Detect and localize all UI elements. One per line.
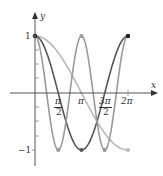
x-tick-3pi-half-num: 3π <box>99 97 111 106</box>
x-tick-3pi-half-den: 2 <box>103 108 109 117</box>
x-tick-pi-half-num: π <box>55 97 61 106</box>
endpoint-dot <box>126 34 130 38</box>
x-tick-pi: π <box>78 97 84 106</box>
x-axis-label: x <box>151 81 156 90</box>
extremum-point <box>103 148 107 152</box>
y-axis-arrow-icon <box>32 12 38 19</box>
y-axis-label: y <box>40 12 45 21</box>
y-tick-1: 1 <box>25 32 31 41</box>
extremum-point <box>126 148 130 152</box>
x-axis-arrow-icon <box>151 90 158 96</box>
extremum-point <box>80 34 84 38</box>
x-tick-2pi: 2π <box>121 97 133 106</box>
extremum-point <box>80 148 84 152</box>
y-tick-neg1: −1 <box>18 146 31 155</box>
x-tick-pi-half-den: 2 <box>56 108 62 117</box>
extremum-point <box>56 148 60 152</box>
